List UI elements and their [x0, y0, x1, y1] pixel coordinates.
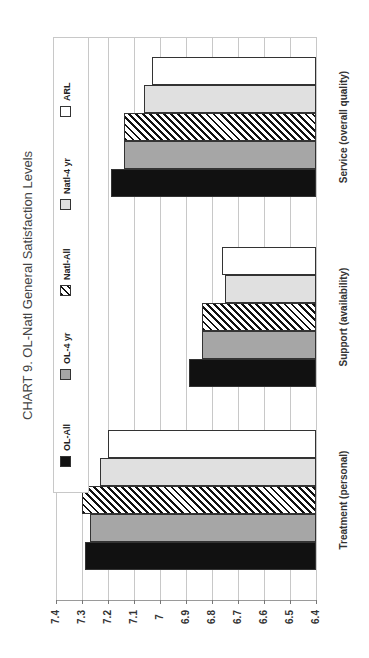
bar-natl-4-yr-1 — [225, 275, 316, 303]
bar-arl-2 — [152, 57, 316, 85]
bar-arl-1 — [222, 247, 316, 275]
legend-label: Natl-4 yr — [62, 114, 74, 194]
bar-natl-4-yr-2 — [144, 85, 316, 113]
bar-natl-4-yr-0 — [100, 458, 316, 486]
bar-ol-4-yr-1 — [202, 331, 316, 359]
legend-label: ARL — [62, 21, 74, 101]
chart-title: CHART 9. OL-Natl General Satisfaction Le… — [20, 140, 38, 420]
tick-label: 7.3 — [75, 604, 89, 630]
category-label: Treatment (personal) — [338, 410, 352, 590]
tick-label: 6.7 — [231, 604, 245, 630]
bar-natl-all-2 — [124, 113, 316, 141]
tick-label: 7.2 — [101, 604, 115, 630]
legend-label: Natl-All — [62, 200, 74, 280]
category-label: Service (overall quality) — [338, 37, 352, 217]
tick-label: 7.4 — [49, 604, 63, 630]
legend-swatch-ol-all — [60, 456, 71, 467]
tick-label: 6.8 — [205, 604, 219, 630]
tick-label: 6.9 — [179, 604, 193, 630]
gridline — [316, 37, 317, 600]
tick-label: 7.1 — [127, 604, 141, 630]
tick-label: 6.5 — [283, 604, 297, 630]
tick-label: 6.6 — [257, 604, 271, 630]
bar-ol-all-2 — [111, 169, 316, 197]
bar-ol-all-0 — [85, 542, 316, 570]
bar-arl-0 — [108, 430, 316, 458]
tick-label: 7 — [153, 604, 167, 630]
legend-swatch-natl-all — [60, 285, 71, 296]
legend-swatch-ol-4-yr — [60, 369, 71, 380]
bar-natl-all-0 — [82, 486, 316, 514]
legend-swatch-arl — [60, 106, 71, 117]
legend: OL-AllOL-4 yrNatl-AllNatl-4 yrARL — [53, 37, 89, 493]
bar-ol-4-yr-2 — [124, 141, 316, 169]
bar-ol-all-1 — [189, 359, 316, 387]
bar-natl-all-1 — [202, 303, 316, 331]
legend-label: OL-4 yr — [62, 284, 74, 364]
category-label: Support (availability) — [338, 227, 352, 407]
legend-swatch-natl-4-yr — [60, 199, 71, 210]
tick-label: 6.4 — [309, 604, 323, 630]
legend-label: OL-All — [62, 371, 74, 451]
bar-ol-4-yr-0 — [90, 514, 316, 542]
